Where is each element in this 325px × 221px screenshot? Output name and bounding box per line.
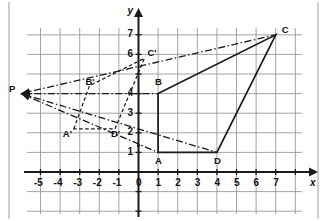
y-tick-label-4: 4 [128,88,134,98]
point-label-B: B [155,77,162,87]
x-tick-label--5: -5 [34,178,43,188]
point-label-A-prime: A' [63,129,72,139]
figure-background [0,0,325,221]
x-axis-label: x [310,178,316,188]
point-label-D-prime: D' [111,129,120,139]
coordinate-plane-figure [0,0,325,221]
point-label-D: D [214,156,221,166]
x-tick-label--2: -2 [93,178,102,188]
x-tick-label-1: 1 [156,178,162,188]
y-tick-label-6: 6 [128,49,134,59]
y-tick-label-7: 7 [128,29,134,39]
x-tick-label-5: 5 [234,178,240,188]
x-tick-label-4: 4 [214,178,220,188]
point-label-B-prime: B' [86,77,95,87]
point-label-P: P [9,84,15,94]
point-label-C: C [282,25,289,35]
point-label-C-prime: C' [147,48,156,58]
x-tick-label-2: 2 [175,178,181,188]
x-tick-label-6: 6 [254,178,260,188]
x-tick-label-3: 3 [195,178,201,188]
x-tick-label--4: -4 [54,178,63,188]
x-tick-label--3: -3 [73,178,82,188]
y-tick-label-2: 2 [128,127,134,137]
y-tick-label-1: 1 [128,147,134,157]
x-tick-label-7: 7 [273,178,279,188]
x-tick-label--1: -1 [112,178,121,188]
y-tick-label-3: 3 [128,108,134,118]
x-tick-label-0: 0 [136,178,142,188]
vertex-dots [137,144,140,147]
point-label-A: A [155,156,162,166]
axis-marker-dot [137,144,140,147]
y-axis-label: y [128,6,134,16]
